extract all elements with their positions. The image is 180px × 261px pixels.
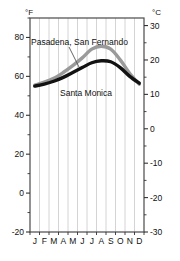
right-axis-ticks (144, 26, 148, 232)
left-tick-label: -20 (2, 228, 24, 236)
month-label-december: D (133, 237, 145, 246)
right-tick-label: 20 (150, 56, 174, 64)
climate-chart: °F °C 806040200-20 3020100-10-20-30 JFMA… (0, 0, 180, 261)
left-tick-label: 60 (2, 72, 24, 80)
left-tick-label: 80 (2, 33, 24, 41)
right-tick-label: -10 (150, 159, 174, 167)
right-tick-label: -20 (150, 194, 174, 202)
left-tick-label: 0 (2, 189, 24, 197)
right-axis-unit-label: °C (152, 9, 161, 17)
left-axis-unit-label: °F (25, 9, 33, 17)
right-tick-label: 10 (150, 90, 174, 98)
left-tick-label: 20 (2, 150, 24, 158)
right-tick-label: 0 (150, 125, 174, 133)
right-tick-label: 30 (150, 22, 174, 30)
right-tick-label: -30 (150, 228, 174, 236)
left-tick-label: 40 (2, 111, 24, 119)
series-label-santa-monica: Santa Monica (60, 89, 112, 98)
series-label-pasadena-san-fernando: Pasadena, San Fernando (31, 38, 128, 47)
